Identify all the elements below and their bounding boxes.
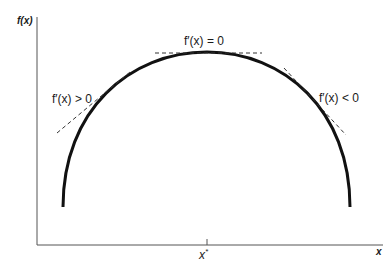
y-axis-label: f(x): [17, 15, 33, 26]
x-star-label: x*: [199, 247, 208, 262]
x-star-sup: *: [205, 247, 208, 256]
function-curve: [63, 52, 350, 207]
annotation-positive-slope: f′(x) > 0: [52, 92, 92, 106]
x-axis-label: x: [376, 246, 382, 257]
annotation-zero-slope: f′(x) = 0: [184, 34, 224, 48]
annotation-negative-slope: f′(x) < 0: [319, 91, 359, 105]
